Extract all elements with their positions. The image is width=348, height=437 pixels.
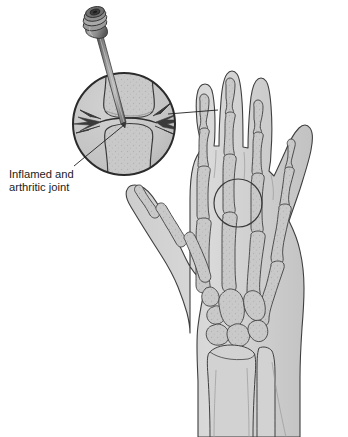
annotation-line-2: arthritic joint: [9, 181, 70, 193]
hand-injection-diagram: Inflamed and arthritic joint: [0, 0, 348, 437]
annotation-line-1: Inflamed and: [9, 168, 74, 180]
carpal-lunate: [227, 324, 250, 347]
annotation-inflamed-joint: Inflamed and arthritic joint: [9, 168, 74, 193]
carpal-scaphoid: [206, 324, 229, 345]
middle-proximal-phalanx: [223, 154, 236, 216]
medical-illustration-figure: Inflamed and arthritic joint: [0, 0, 348, 437]
ulna-bone: [257, 347, 275, 437]
middle-metacarpal: [222, 212, 237, 293]
carpal-bones: [202, 287, 268, 347]
index-proximal-phalanx: [197, 166, 210, 222]
forearm-bones: [207, 345, 275, 437]
ring-distal-phalanx: [253, 100, 263, 136]
